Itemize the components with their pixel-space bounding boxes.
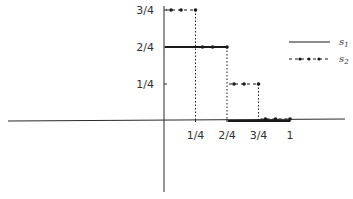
x-tick-label: 2/4 (218, 129, 236, 142)
step-marker (201, 45, 205, 49)
step-marker (179, 8, 183, 12)
step-function-chart: 1/42/43/411/42/43/4 s1s2 (0, 0, 353, 199)
x-tick-label: 1/4 (187, 129, 205, 142)
step-marker (232, 82, 236, 86)
legend-item-s2: s2 (289, 53, 349, 66)
legend-label: s2 (339, 53, 349, 66)
x-tick-label: 3/4 (250, 129, 268, 142)
legend: s1s2 (289, 36, 349, 66)
step-marker (211, 45, 215, 49)
step-marker (288, 117, 292, 121)
axes (8, 6, 345, 192)
step-marker (169, 8, 173, 12)
x-tick-label: 1 (287, 129, 294, 142)
step-marker (264, 117, 268, 121)
y-tick-label: 3/4 (136, 4, 154, 17)
data-series (165, 8, 292, 121)
x-axis (8, 119, 345, 121)
series-s2 (166, 8, 292, 121)
legend-marker (298, 57, 301, 60)
y-tick-label: 2/4 (136, 41, 154, 54)
legend-item-s1: s1 (289, 36, 349, 49)
y-tick-label: 1/4 (136, 78, 154, 91)
legend-label: s1 (339, 36, 349, 49)
legend-marker (317, 57, 320, 60)
step-marker (242, 82, 246, 86)
legend-marker (307, 57, 310, 60)
step-marker (274, 117, 278, 121)
